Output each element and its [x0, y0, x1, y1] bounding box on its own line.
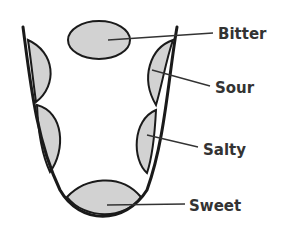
- region-salty-right: [137, 110, 156, 173]
- label-bitter: Bitter: [218, 25, 267, 43]
- label-salty: Salty: [203, 141, 246, 159]
- diagram-svg: Bitter Sour Salty Sweet: [0, 0, 297, 231]
- leader-line-salty: [147, 135, 198, 147]
- tongue-taste-diagram: Bitter Sour Salty Sweet: [0, 0, 297, 231]
- label-sour: Sour: [215, 79, 255, 97]
- region-bitter: [68, 21, 130, 59]
- label-sweet: Sweet: [189, 197, 241, 215]
